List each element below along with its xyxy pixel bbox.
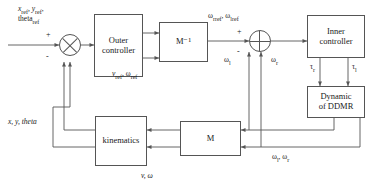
control-block-diagram: Outer controller M⁻¹ Inner controller Dy… <box>0 0 376 191</box>
inner-summing-junction[interactable] <box>249 30 271 52</box>
label-reference-input: xref, yref, thetaref <box>18 5 44 26</box>
m-inverse-label: M⁻¹ <box>176 37 191 47</box>
pose-feedback: x, y, theta <box>8 117 37 126</box>
outer-controller-label: Outer controller <box>102 36 135 55</box>
inner-controller-label-line2: controller <box>319 36 352 46</box>
dynamic-label-line1: Dynamic <box>320 91 351 101</box>
block-m-matrix[interactable]: M <box>180 121 241 156</box>
label-pose-feedback: x, y, theta <box>8 118 37 127</box>
block-dynamic-of-ddmr[interactable]: Dynamic of DDMR <box>307 86 365 118</box>
ref-comma: , <box>42 4 44 13</box>
omega-r-sub: r <box>276 60 278 66</box>
label-wheel-speed-feedback: ωl, ωr <box>272 153 289 163</box>
block-m-inverse[interactable]: M⁻¹ <box>159 22 208 62</box>
ref-theta-sub: ref <box>33 19 40 25</box>
omega-ref-sub: ref <box>131 74 138 80</box>
outer-sum-minus-sign: - <box>46 53 49 61</box>
ref-y-sub: ref <box>35 9 42 15</box>
label-omega-left: ωl <box>224 56 231 66</box>
inner-sum-plus-sign: + <box>237 28 242 36</box>
label-omega-right: ωr <box>271 56 278 66</box>
label-tau-left: τl <box>352 63 357 73</box>
omega-l-sub: l <box>229 60 231 66</box>
block-kinematics[interactable]: kinematics <box>95 116 147 166</box>
inner-sum-minus-sign: - <box>237 48 240 56</box>
omega-rref-sub: rref <box>213 16 222 22</box>
v-omega: v, ω <box>141 171 153 180</box>
omega-r-fb-sub: r <box>287 157 289 163</box>
outer-sum-plus-sign: + <box>46 31 51 39</box>
omega-ref: , ω <box>122 69 131 78</box>
sum-vertical-line <box>259 31 260 51</box>
inner-controller-label-line1: Inner <box>327 26 345 36</box>
tau-r-sub: r <box>313 67 315 73</box>
v-ref-sub: ref <box>115 74 122 80</box>
tau-l-sub: l <box>355 67 357 73</box>
inner-controller-label: Inner controller <box>319 27 352 46</box>
omega-r-fb: , ω <box>279 152 288 161</box>
omega-lref-sub: lref <box>230 16 238 22</box>
dynamic-label-line2: of DDMR <box>319 101 354 111</box>
label-wheel-reference-speeds: ωrref, ωlref <box>208 12 239 22</box>
outer-controller-label-line1: Outer <box>109 35 128 45</box>
m-matrix-label: M <box>207 134 215 144</box>
omega-lref: , ω <box>222 11 231 20</box>
outer-summing-junction[interactable] <box>59 34 81 56</box>
block-inner-controller[interactable]: Inner controller <box>307 15 365 58</box>
dynamic-of-ddmr-label: Dynamic of DDMR <box>319 92 354 111</box>
ref-theta: theta <box>18 14 33 23</box>
outer-controller-label-line2: controller <box>102 45 135 55</box>
kinematics-label: kinematics <box>103 136 140 146</box>
block-outer-controller[interactable]: Outer controller <box>94 14 143 77</box>
label-v-omega: v, ω <box>141 172 153 181</box>
label-outer-controller-output: vref, ωref <box>112 70 137 80</box>
label-tau-right: τr <box>310 63 315 73</box>
sum-horizontal-line <box>250 41 270 42</box>
